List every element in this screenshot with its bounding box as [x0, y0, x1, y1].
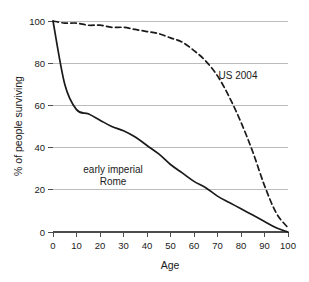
xtick-label-20: 20 [95, 240, 106, 251]
xtick-label-50: 50 [165, 240, 176, 251]
xtick-label-10: 10 [71, 240, 82, 251]
xtick-label-80: 80 [236, 240, 247, 251]
x-axis-title: Age [161, 259, 180, 271]
xtick-label-100: 100 [280, 240, 296, 251]
survival-curve-chart: 100 80 60 40 20 0 0 10 20 30 40 50 60 70… [0, 0, 309, 282]
series-label-us-2004: US 2004 [219, 70, 258, 81]
ytick-label-60: 60 [34, 100, 45, 111]
ytick-label-80: 80 [34, 58, 45, 69]
ytick-label-100: 100 [29, 16, 45, 27]
xtick-label-70: 70 [212, 240, 223, 251]
ytick-label-0: 0 [40, 227, 45, 238]
chart-canvas: 100 80 60 40 20 0 0 10 20 30 40 50 60 70… [0, 0, 309, 282]
y-axis-title: % of people surviving [12, 76, 24, 176]
ytick-label-40: 40 [34, 142, 45, 153]
xtick-label-40: 40 [142, 240, 153, 251]
xtick-label-0: 0 [50, 240, 55, 251]
ytick-label-20: 20 [34, 184, 45, 195]
series-label-rome-line2: Rome [100, 176, 127, 187]
series-label-rome-line1: early imperial [83, 164, 142, 175]
xtick-label-60: 60 [189, 240, 200, 251]
xtick-label-30: 30 [118, 240, 129, 251]
xtick-label-90: 90 [259, 240, 270, 251]
